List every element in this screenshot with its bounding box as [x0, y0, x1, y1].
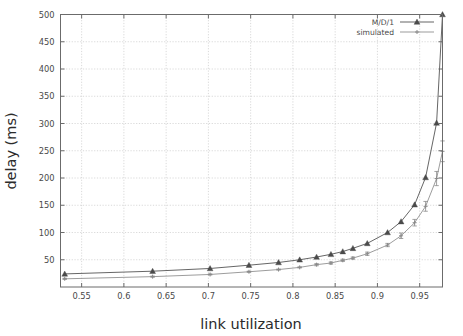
y-axis-title: delay (ms)	[3, 112, 19, 189]
legend-label-2: simulated	[356, 28, 394, 37]
x-tick-label: 0.55	[72, 291, 90, 301]
y-tick-label: 250	[39, 146, 55, 156]
y-tick-label: 150	[39, 200, 55, 210]
x-axis-title: link utilization	[200, 316, 302, 332]
y-tick-label: 100	[39, 228, 55, 238]
x-tick-label: 0.75	[241, 291, 259, 301]
chart-figure: 0.550.60.650.70.750.80.850.90.9550100150…	[0, 0, 463, 336]
plot-background	[0, 0, 463, 336]
y-tick-label: 300	[39, 119, 55, 129]
x-tick-label: 0.65	[157, 291, 175, 301]
x-tick-label: 0.9	[371, 291, 384, 301]
y-tick-label: 400	[39, 64, 55, 74]
x-tick-label: 0.95	[410, 291, 428, 301]
x-tick-label: 0.6	[117, 291, 130, 301]
y-tick-label: 200	[39, 173, 55, 183]
y-tick-label: 500	[39, 10, 55, 20]
y-tick-label: 50	[44, 255, 55, 265]
x-tick-label: 0.8	[286, 291, 299, 301]
x-tick-label: 0.85	[326, 291, 344, 301]
y-tick-label: 350	[39, 91, 55, 101]
delay-vs-link-utilization-plot: 0.550.60.650.70.750.80.850.90.9550100150…	[0, 0, 463, 336]
legend-label-1: M/D/1	[372, 18, 395, 27]
x-tick-label: 0.7	[202, 291, 215, 301]
y-tick-label: 450	[39, 37, 55, 47]
